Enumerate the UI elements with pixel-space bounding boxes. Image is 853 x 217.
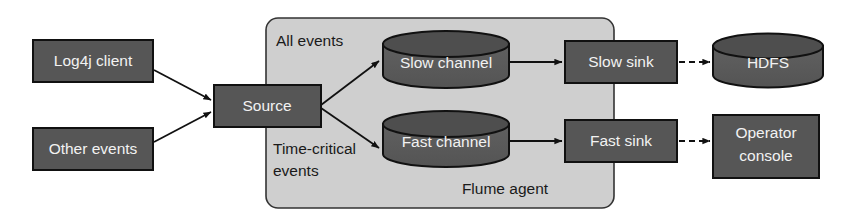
node-fast-channel[interactable]: Fast channel — [383, 111, 509, 167]
flume-agent-label: Flume agent — [462, 180, 549, 197]
caption-all-events: All events — [276, 32, 343, 49]
node-operator-console[interactable]: Operator console — [713, 115, 819, 178]
operator-console-label-line2: console — [739, 147, 792, 164]
node-slow-channel[interactable]: Slow channel — [383, 31, 509, 88]
fast-channel-label: Fast channel — [402, 133, 491, 150]
node-source[interactable]: Source — [214, 85, 321, 127]
fast-sink-label: Fast sink — [590, 132, 652, 149]
flume-architecture-diagram: Flume agent All events Time-critical eve… — [0, 0, 853, 217]
node-log4j-client[interactable]: Log4j client — [33, 40, 153, 82]
node-fast-sink[interactable]: Fast sink — [565, 120, 677, 162]
log4j-client-label: Log4j client — [54, 52, 133, 69]
node-other-events[interactable]: Other events — [33, 128, 153, 170]
node-hdfs[interactable]: HDFS — [713, 34, 823, 88]
caption-time-critical-events-line1: Time-critical — [273, 140, 356, 157]
caption-time-critical-events-line2: events — [273, 162, 319, 179]
operator-console-label-line1: Operator — [735, 124, 796, 141]
source-label: Source — [242, 97, 291, 114]
other-events-label: Other events — [49, 140, 138, 157]
edge-log4j-to-source — [154, 70, 211, 100]
edge-other-events-to-source — [154, 112, 211, 142]
slow-channel-top — [383, 31, 509, 57]
node-slow-sink[interactable]: Slow sink — [565, 41, 677, 83]
slow-channel-label: Slow channel — [400, 54, 492, 71]
diagram-canvas: Flume agent All events Time-critical eve… — [0, 0, 853, 217]
hdfs-label: HDFS — [747, 54, 789, 71]
slow-sink-label: Slow sink — [588, 53, 654, 70]
